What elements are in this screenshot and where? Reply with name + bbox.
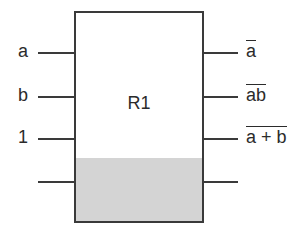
- input-wire-unlabeled: [38, 181, 74, 183]
- block-shaded-region: [76, 158, 202, 221]
- output-label-nand-ab: ab: [246, 84, 266, 105]
- output-wire-nand-ab: [202, 96, 238, 98]
- input-wire-a: [38, 52, 74, 54]
- output-label-not-a: a: [246, 40, 256, 61]
- input-wire-b: [38, 96, 74, 98]
- input-label-a: a: [14, 41, 28, 61]
- input-label-1: 1: [14, 127, 28, 147]
- logic-block-r1: R1: [74, 11, 204, 223]
- output-wire-nor-a-b: [202, 138, 238, 140]
- input-label-b: b: [14, 85, 28, 105]
- input-wire-1: [38, 138, 74, 140]
- output-wire-unlabeled: [202, 181, 238, 183]
- output-wire-not-a: [202, 52, 238, 54]
- output-label-nor-a-b: a + b: [246, 126, 287, 147]
- block-label: R1: [76, 93, 202, 114]
